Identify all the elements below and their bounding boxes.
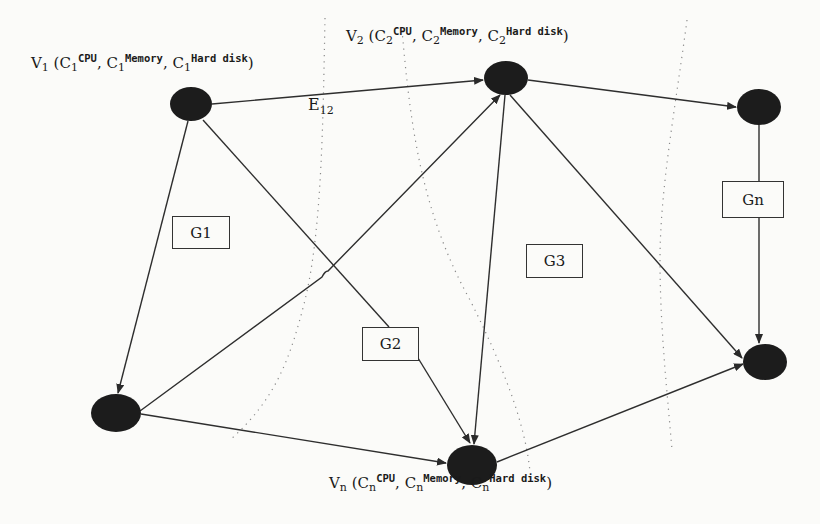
node-label-v2: V2 (C2CPU, C2Memory, C2Hard disk): [346, 25, 569, 47]
label-c: C: [487, 27, 498, 45]
edge-v2-vn: [474, 95, 505, 444]
label-c: C: [421, 27, 432, 45]
label-open: (: [347, 474, 358, 492]
label-cpu: CPU: [376, 472, 395, 484]
label-sub: 1: [118, 61, 125, 74]
partition-separators: [230, 18, 687, 472]
label-close: ): [546, 474, 552, 492]
label-sep: ,: [395, 474, 405, 492]
label-sub: 2: [386, 34, 393, 47]
group-box-g3[interactable]: G3: [526, 244, 583, 278]
label-v: V: [346, 27, 357, 45]
label-memory: Memory: [125, 52, 163, 64]
group-box-g2[interactable]: G2: [362, 327, 419, 361]
node-label-v1: V1 (C1CPU, C1Memory, C1Hard disk): [31, 52, 254, 74]
label-c: C: [405, 474, 416, 492]
nodes: [91, 61, 787, 485]
label-close: ): [248, 54, 254, 72]
label-c: C: [358, 474, 369, 492]
edge-bottomleft-vn: [141, 414, 446, 463]
label-sub: 2: [499, 34, 506, 47]
edge-g2-vn: [418, 358, 470, 443]
node-top-right[interactable]: [737, 89, 781, 125]
node-v2[interactable]: [484, 61, 528, 95]
label-sep: ,: [163, 54, 173, 72]
group-box-g1[interactable]: G1: [172, 216, 230, 249]
label-c: C: [471, 474, 482, 492]
label-sep: ,: [478, 27, 488, 45]
label-hard-disk: Hard disk: [191, 52, 248, 64]
graph-canvas: [0, 0, 820, 524]
separator-line-3: [660, 20, 687, 450]
edge-label-main: E: [308, 95, 320, 114]
label-sep: ,: [461, 474, 471, 492]
node-label-vn: Vn (CnCPU, CnMemory, CnHard disk): [329, 472, 552, 494]
label-sub: 1: [184, 61, 191, 74]
separator-line-1: [230, 18, 325, 440]
label-v: V: [329, 474, 340, 492]
label-open: (: [364, 27, 375, 45]
label-memory: Memory: [423, 472, 461, 484]
group-box-gn[interactable]: Gn: [722, 181, 784, 218]
edge-label-sub: 12: [320, 104, 334, 117]
label-c: C: [374, 27, 385, 45]
label-sub: 1: [71, 61, 78, 74]
edges: [118, 80, 759, 463]
label-hard-disk: Hard disk: [506, 25, 563, 37]
label-cpu: CPU: [78, 52, 97, 64]
label-c: C: [59, 54, 70, 72]
edge-label-e12: E12: [308, 95, 334, 117]
edge-v2-topright: [528, 80, 736, 107]
label-cpu: CPU: [393, 25, 412, 37]
label-memory: Memory: [440, 25, 478, 37]
label-close: ): [563, 27, 569, 45]
edge-v1-bottomleft: [118, 121, 188, 393]
label-c: C: [106, 54, 117, 72]
edge-v1-v2: [212, 80, 483, 104]
label-v: V: [31, 54, 42, 72]
label-hard-disk: Hard disk: [489, 472, 546, 484]
label-sub: 1: [42, 61, 49, 74]
edge-vn-bottomright: [497, 364, 743, 462]
edge-bottomleft-v2: [140, 95, 500, 411]
edge-v2-bottomright: [510, 95, 742, 358]
node-bottom-right[interactable]: [743, 344, 787, 380]
node-bottom-left[interactable]: [91, 394, 141, 432]
node-v1[interactable]: [170, 87, 212, 121]
label-open: (: [49, 54, 60, 72]
label-sub: 2: [357, 34, 364, 47]
label-c: C: [172, 54, 183, 72]
label-sub: n: [340, 481, 347, 494]
label-sub: 2: [433, 34, 440, 47]
